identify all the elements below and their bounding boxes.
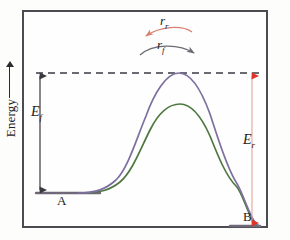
forward-rate-curved-arrow-icon <box>140 46 194 55</box>
reverse-rate-curved-arrow-icon <box>146 27 192 36</box>
inner-barrier-curve <box>82 104 260 226</box>
reverse-rate-label: rr <box>160 13 169 31</box>
reverse-activation-energy-label: Er <box>243 132 255 150</box>
outer-barrier-curve <box>78 73 260 226</box>
reactant-state-label: A <box>57 193 66 209</box>
y-axis-label-group: Energy <box>0 60 22 190</box>
energy-diagram-figure: Energy <box>0 0 290 240</box>
forward-activation-energy-label: Ef <box>31 104 42 122</box>
forward-rate-label: rf <box>157 37 165 55</box>
product-state-label: B <box>243 209 252 225</box>
y-axis-label: Energy <box>3 83 19 153</box>
